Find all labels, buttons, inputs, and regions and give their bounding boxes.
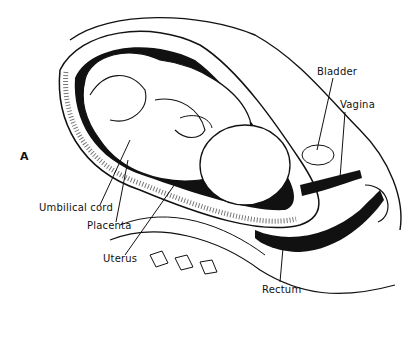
rectum-leader [280,248,283,282]
fetus-head [200,125,290,205]
spine-outline [110,232,395,293]
label-rectum: Rectum [262,284,301,295]
label-placenta: Placenta [87,220,132,231]
bladder-leader [317,78,333,150]
bladder-shape [302,145,334,165]
vertebra [150,251,217,274]
panel-letter: A [20,150,29,163]
pregnancy-anatomy-illustration [0,0,411,341]
label-umbilical-cord: Umbilical cord [39,202,113,213]
label-bladder: Bladder [317,66,357,77]
label-uterus: Uterus [103,253,137,264]
vagina-leader [340,112,345,178]
label-vagina: Vagina [340,99,375,110]
